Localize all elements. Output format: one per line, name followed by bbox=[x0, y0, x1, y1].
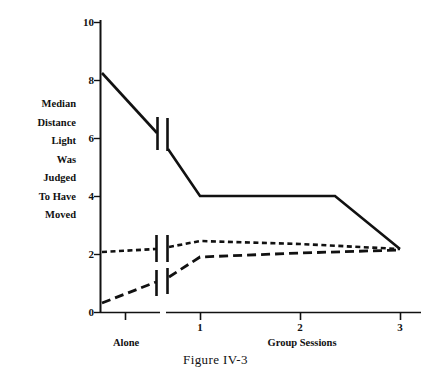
x-tick-label-3: 3 bbox=[390, 322, 410, 333]
series-dotted-left bbox=[102, 249, 156, 252]
figure-caption: Figure IV-3 bbox=[0, 352, 431, 368]
y-tick-label-0: 0 bbox=[76, 307, 94, 318]
series-dashed-right bbox=[169, 250, 400, 277]
series-dashed-left bbox=[102, 282, 156, 303]
y-tick-label-2: 2 bbox=[76, 249, 94, 260]
series-solid-right bbox=[168, 149, 400, 249]
y-axis-title-line-1: Median bbox=[8, 95, 76, 114]
x-tick-label-1: 1 bbox=[190, 322, 210, 333]
y-axis-title-line-6: To Have bbox=[8, 188, 76, 207]
x-group-label-sessions: Group Sessions bbox=[250, 337, 354, 348]
y-axis-title-line-2: Distance bbox=[8, 114, 76, 133]
y-axis-title-line-7: Moved bbox=[8, 206, 76, 225]
y-axis-title-line-5: Judged bbox=[8, 169, 76, 188]
y-tick-label-8: 8 bbox=[76, 75, 94, 86]
y-axis-title: Median Distance Light Was Judged To Have… bbox=[8, 95, 76, 225]
x-group-label-alone: Alone bbox=[100, 337, 152, 348]
y-tick-label-6: 6 bbox=[76, 133, 94, 144]
y-axis-title-line-3: Light bbox=[8, 132, 76, 151]
figure-container: 10 8 6 4 2 0 Median Distance Light Was J… bbox=[0, 0, 431, 378]
series-solid-left bbox=[102, 73, 157, 133]
series-dotted-right bbox=[169, 241, 400, 249]
y-tick-label-4: 4 bbox=[76, 191, 94, 202]
x-tick-label-2: 2 bbox=[290, 322, 310, 333]
y-axis-title-line-4: Was bbox=[8, 151, 76, 170]
y-tick-label-10: 10 bbox=[76, 17, 94, 28]
